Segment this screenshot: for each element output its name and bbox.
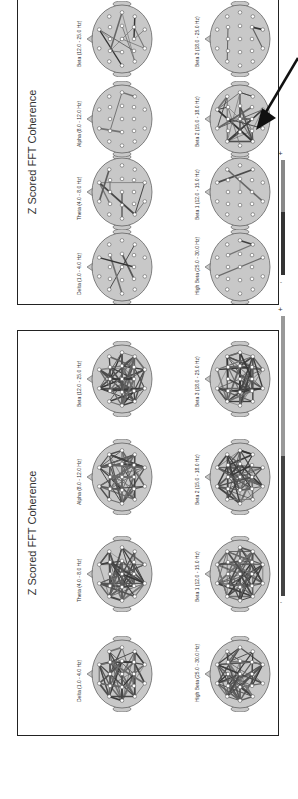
- head-map: [80, 536, 160, 612]
- head-map: [80, 439, 160, 515]
- colorbar-plus-label: +: [278, 150, 283, 158]
- head-map: [198, 81, 278, 157]
- head-map: [198, 536, 278, 612]
- head-map-label: Beta 1 (12.0 - 15.0 Hz): [194, 169, 200, 220]
- colorbar: [281, 160, 285, 275]
- head-map-label: Delta (1.0 - 4.0 Hz): [76, 253, 82, 295]
- head-map-label: Alpha (8.0 - 12.0 Hz): [76, 101, 82, 147]
- head-map-label: Beta (12.0 - 25.0 Hz): [76, 361, 82, 407]
- head-map-label: Beta 1 (12.0 - 15.0 Hz): [194, 551, 200, 602]
- head-map-label: Theta (4.0 - 8.0 Hz): [76, 559, 82, 602]
- head-map: [80, 636, 160, 712]
- head-map-label: Beta 3 (18.0 - 25.0 Hz): [194, 16, 200, 67]
- panel-title: Z Scored FFT Coherence: [26, 471, 38, 596]
- head-map: [80, 81, 160, 157]
- head-map-label: Beta (12.0 - 25.0 Hz): [76, 21, 82, 67]
- head-map-label: High Beta (25.0 - 30.0 Hz): [194, 644, 200, 702]
- coherence-panel-top: Z Scored FFT Coherence Delta (1.0 - 4.0 …: [17, 0, 279, 305]
- colorbar-minus-label: -: [280, 599, 282, 605]
- head-map: [198, 636, 278, 712]
- head-map: [80, 341, 160, 417]
- head-map: [198, 341, 278, 417]
- colorbar-plus-label: +: [278, 306, 283, 314]
- head-map-label: Beta 3 (18.0 - 25.0 Hz): [194, 356, 200, 407]
- coherence-panel-bottom: Z Scored FFT Coherence Delta (1.0 - 4.0 …: [17, 330, 279, 736]
- head-map-label: Delta (1.0 - 4.0 Hz): [76, 660, 82, 702]
- head-map: [80, 1, 160, 77]
- head-map-label: Beta 2 (15.0 - 18.0 Hz): [194, 96, 200, 147]
- head-map-label: Beta 2 (15.0 - 18.0 Hz): [194, 454, 200, 505]
- head-map-label: Theta (4.0 - 8.0 Hz): [76, 177, 82, 220]
- panel-title: Z Scored FFT Coherence: [26, 89, 38, 214]
- head-map: [198, 154, 278, 230]
- colorbar-minus-label: -: [280, 279, 282, 285]
- colorbar: [281, 316, 285, 596]
- head-map: [198, 229, 278, 305]
- head-map-label: Alpha (8.0 - 12.0 Hz): [76, 459, 82, 505]
- head-map-label: High Beta (25.0 - 30.0 Hz): [194, 237, 200, 295]
- head-map: [80, 229, 160, 305]
- head-map: [198, 1, 278, 77]
- head-map: [80, 154, 160, 230]
- head-map: [198, 439, 278, 515]
